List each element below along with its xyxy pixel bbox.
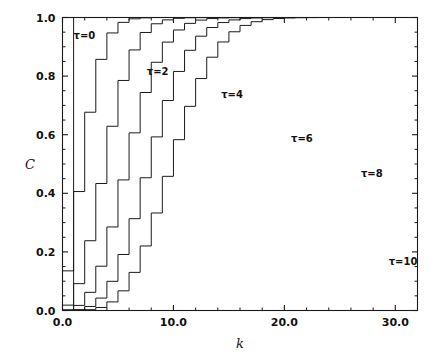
y-axis-label: C: [25, 157, 35, 172]
poisson-cdf-step-chart: 0.010.020.030.00.00.20.40.60.81.0 τ=0τ=2…: [0, 0, 441, 355]
y-tick-label: 1.0: [36, 12, 56, 25]
y-tick-label: 0.0: [36, 305, 56, 318]
y-tick-label: 0.2: [36, 246, 56, 259]
series-label-t=2: τ=2: [147, 66, 169, 77]
series-label-t=0: τ=0: [74, 30, 96, 41]
x-tick-label: 10.0: [160, 316, 187, 329]
x-tick-label: 20.0: [271, 316, 298, 329]
x-tick-label: 0.0: [53, 316, 73, 329]
series-label-t=4: τ=4: [221, 89, 243, 100]
x-tick-label: 30.0: [382, 316, 409, 329]
series-label-t=8: τ=8: [361, 168, 383, 179]
x-axis-label: k: [236, 336, 244, 351]
y-tick-label: 0.6: [36, 129, 56, 142]
series-label-t=10: τ=10: [389, 256, 418, 267]
figure-container: 0.010.020.030.00.00.20.40.60.81.0 τ=0τ=2…: [0, 0, 441, 355]
series-label-t=6: τ=6: [291, 133, 313, 144]
y-tick-label: 0.8: [36, 70, 56, 83]
y-tick-label: 0.4: [36, 187, 56, 200]
